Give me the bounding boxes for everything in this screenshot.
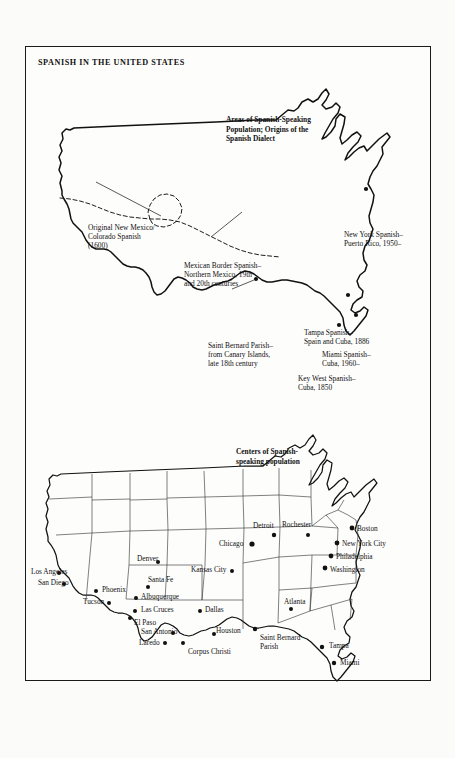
annotation-saint-bernard-lines: from Canary Islands, late 18th century [208,350,270,368]
city-label-rochester: Rochester [282,521,311,529]
city-label-phoenix: Phoenix [102,586,126,594]
us-outline-top [59,89,390,335]
dot-las-cruces [133,609,137,613]
city-label-albuquerque: Albuquerque [141,593,179,601]
dot-kansas-city [230,569,234,573]
top-map-caption: Areas of Spanish-Speaking Population; Or… [226,115,311,144]
annotation-new-york: New York Spanish–Puerto Rico, 1950– [344,230,403,248]
city-label-corpus-christi: Corpus Christi [188,648,231,656]
annotation-key-west-lines: Cuba, 1850 [298,383,332,392]
city-label-miami: Miami [340,659,359,667]
dot-el-paso [128,616,132,620]
city-label-philadelphia: Philadelphia [336,553,372,561]
annotation-miami: Miami Spanish–Cuba, 1960– [322,350,371,368]
annotation-new-mexico-colorado: Original New Mexico/Colorado Spanish (16… [88,223,155,251]
dot-tucson [107,601,111,605]
city-label-dallas: Dallas [205,606,224,614]
dot-miami [332,661,336,665]
page: SPANISH IN THE UNITED STATES Areas of Sp… [0,0,455,758]
annotation-key-west-heading: Key West Spanish– [298,374,356,383]
leader-mexican-border [211,212,242,237]
city-label-denver: Denver [137,555,158,563]
annotation-miami-heading: Miami Spanish– [322,350,371,359]
dot-corpus-christi [181,641,185,645]
city-label-el-paso: El Paso [134,619,156,627]
annotation-saint-bernard-heading: Saint Bernard Parish– [208,341,273,350]
annotation-tampa-lines: Spain and Cuba, 1886 [304,337,369,346]
dot-laredo [163,641,167,645]
annotation-key-west: Key West Spanish–Cuba, 1850 [298,374,356,392]
city-label-boston: Boston [357,525,378,533]
annotation-tampa: Tampa Spanish–Spain and Cuba, 1886 [304,328,369,346]
city-label-tampa: Tampa [329,642,349,650]
city-label-washington: Washington [330,566,365,574]
city-label-chicago: Chicago [219,540,243,548]
dot-santa-fe [146,585,150,589]
annotation-saint-bernard-parish: Saint Bernard Parish–from Canary Islands… [208,341,273,369]
dot-new-york-city [335,541,340,546]
annotation-new-york-lines: Puerto Rico, 1950– [344,239,401,248]
city-label-laredo: Laredo [139,639,160,647]
annotation-miami-lines: Cuba, 1960– [322,359,360,368]
city-label-houston: Houston [216,627,241,635]
dot-tampa [320,645,324,649]
city-label-santa-fe: Santa Fe [148,576,173,584]
annotation-new-mexico-colorado-lines: Colorado Spanish (1600) [88,232,141,250]
dot-philadelphia [329,554,334,559]
city-label-new-york-city: New York City [342,540,386,548]
dot-detroit [272,533,276,537]
annotation-new-mexico-colorado-heading: Original New Mexico/ [88,223,155,232]
city-label-las-cruces: Las Cruces [141,606,174,614]
leader-new-mexico [96,182,161,216]
dot-phoenix [94,589,98,593]
city-label-detroit: Detroit [253,522,274,530]
annotation-mexican-border-heading: Mexican Border Spanish– [184,261,261,270]
figure-frame: SPANISH IN THE UNITED STATES Areas of Sp… [25,46,431,681]
annotation-mexican-border-lines: Northern Mexico, 19th and 20th centuries [184,270,252,288]
dot-atlanta [289,607,293,611]
dot-new-york-top [364,187,368,191]
us-outline-bottom [46,435,377,681]
dot-chicago [249,541,254,546]
city-label-san-diego: San Diego [38,579,69,587]
dot-tampa-top [346,293,350,297]
annotation-tampa-heading: Tampa Spanish– [304,328,353,337]
page-title: SPANISH IN THE UNITED STATES [38,58,185,67]
dot-boston [350,526,355,531]
city-label-los-angeles: Los Angeles [31,568,67,576]
city-label-atlanta: Atlanta [284,598,305,606]
city-label-kansas-city: Kansas City [191,566,226,574]
bottom-map-caption: Centers of Spanish- speaking population [236,447,300,466]
annotation-mexican-border: Mexican Border Spanish–Northern Mexico, … [184,261,261,289]
dot-key-west-top [337,323,341,327]
dot-rochester [306,533,310,537]
dot-miami-top [354,313,358,317]
dot-albuquerque [134,596,138,600]
city-label-san-antonio: San Antonio [141,628,177,636]
city-label-saint-bernard-parish: Saint Bernard Parish [260,633,300,652]
dot-washington [323,566,328,571]
dot-dallas [198,609,202,613]
annotation-new-york-heading: New York Spanish– [344,230,403,239]
dot-saint-bernard [253,627,257,631]
city-label-tucson: Tucson [83,598,104,606]
